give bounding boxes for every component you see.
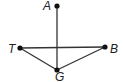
label-T: T — [8, 42, 17, 56]
labels: A T B G — [8, 0, 118, 82]
label-A: A — [42, 0, 51, 13]
point-T — [17, 45, 22, 50]
point-B — [102, 44, 107, 49]
segment-TG — [20, 48, 57, 70]
segments — [20, 6, 105, 70]
segment-GB — [57, 47, 105, 70]
segment-TB — [20, 47, 105, 48]
points — [17, 3, 107, 72]
geometry-diagram: A T B G — [0, 0, 123, 82]
label-B: B — [110, 42, 118, 56]
point-A — [54, 3, 59, 8]
label-G: G — [55, 70, 64, 82]
